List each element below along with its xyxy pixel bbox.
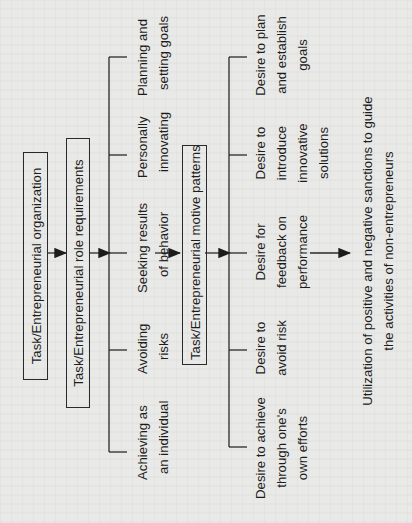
motive-avoid-risk: Desire to avoid risk <box>250 312 292 384</box>
box-label-role-requirements: Task/Entrepreneurial role requirements <box>68 144 89 402</box>
motive-line: feedback on <box>271 212 292 292</box>
box-label-organization: Task/Entrepreneurial organization <box>26 158 47 374</box>
requirement-planning: Planning and setting goals <box>132 16 174 96</box>
outcome-line: Utilization of positive and negative san… <box>357 96 378 406</box>
requirement-line: risks <box>153 324 174 374</box>
motive-line: performance <box>292 212 313 292</box>
requirement-seeking-results: Seeking results of behavior <box>132 203 174 293</box>
requirement-avoiding-risks: Avoiding risks <box>132 324 174 374</box>
motive-line: Desire to <box>250 312 271 384</box>
motive-line: Desire to <box>250 119 271 187</box>
motive-plan-goals: Desire to plan and establish goals <box>250 10 313 100</box>
requirement-achieving: Achieving as an individual <box>132 401 174 480</box>
requirement-line: innovating <box>153 112 174 178</box>
motive-line: avoid risk <box>271 312 292 384</box>
requirement-line: Personally <box>132 112 153 178</box>
motive-line: Desire to achieve <box>250 392 271 504</box>
requirement-line: of behavior <box>153 203 174 293</box>
motive-line: introduce <box>271 119 292 187</box>
motive-line: through one's <box>271 392 292 504</box>
box-label-motive-patterns: Task/Entrepreneurial motive patterns <box>185 150 206 360</box>
motive-feedback: Desire for feedback on performance <box>250 212 313 292</box>
motive-line: solutions <box>313 119 334 187</box>
motive-line: and establish <box>271 10 292 100</box>
motive-line: innovative <box>292 119 313 187</box>
requirement-line: an individual <box>153 401 174 480</box>
motive-innovative-solutions: Desire to introduce innovative solutions <box>250 119 334 187</box>
outcome-line: the activities of non-entrepreneurs <box>378 96 399 406</box>
outcome-sanctions: Utilization of positive and negative san… <box>357 96 399 406</box>
requirement-line: Seeking results <box>132 203 153 293</box>
requirement-line: Avoiding <box>132 324 153 374</box>
motive-achieve-own-efforts: Desire to achieve through one's own effo… <box>250 392 313 504</box>
requirement-line: Achieving as <box>132 401 153 480</box>
requirement-line: Planning and <box>132 16 153 96</box>
motive-line: own efforts <box>292 392 313 504</box>
motive-line: goals <box>292 10 313 100</box>
requirement-innovating: Personally innovating <box>132 112 174 178</box>
motive-line: Desire to plan <box>250 10 271 100</box>
motive-line: Desire for <box>250 212 271 292</box>
requirement-line: setting goals <box>153 16 174 96</box>
